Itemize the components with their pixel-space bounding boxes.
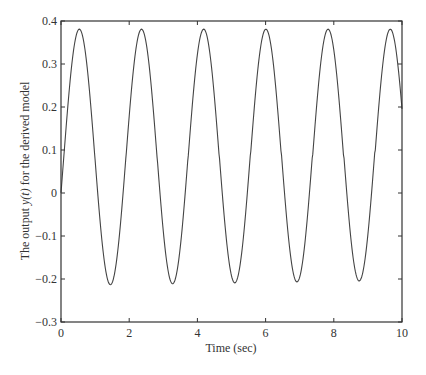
y-tick-label: −0.2 xyxy=(35,272,57,286)
y-tick-label: 0.3 xyxy=(42,57,57,71)
chart-figure: 0246810 −0.3−0.2−0.100.10.20.30.4 Time (… xyxy=(0,0,426,375)
y-tick-label: −0.1 xyxy=(35,229,57,243)
y-tick-labels: −0.3−0.2−0.100.10.20.30.4 xyxy=(35,14,57,329)
x-axis-label: Time (sec) xyxy=(205,341,256,355)
x-tick-label: 10 xyxy=(396,326,408,340)
x-tick-label: 6 xyxy=(263,326,269,340)
y-tick-label: 0.4 xyxy=(42,14,57,28)
x-tick-label: 8 xyxy=(331,326,337,340)
y-tick-label: −0.3 xyxy=(35,315,57,329)
y-tick-label: 0.2 xyxy=(42,100,57,114)
y-tick-label: 0.1 xyxy=(42,143,57,157)
y-tick-label: 0 xyxy=(51,186,57,200)
y-axis-label: The output y(t) for the derived model xyxy=(18,81,32,260)
x-tick-label: 0 xyxy=(58,326,64,340)
x-tick-label: 2 xyxy=(126,326,132,340)
x-tick-labels: 0246810 xyxy=(58,326,408,340)
series-line-y xyxy=(61,29,402,285)
x-tick-label: 4 xyxy=(194,326,200,340)
